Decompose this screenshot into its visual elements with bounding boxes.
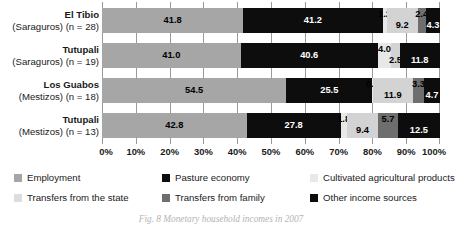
bar-value-label: 9.2 (396, 21, 409, 30)
category-label-sub: (Saraguros) (n = 28) (0, 21, 99, 33)
bar-value-label: 42.8 (165, 121, 183, 130)
legend-item[interactable]: Other income sources (310, 192, 417, 203)
legend-swatch-icon (162, 194, 170, 202)
x-tick-label: 100% (422, 146, 446, 157)
bar-row: 41.841.21.29.22.44.3 (102, 8, 440, 33)
legend-item[interactable]: Pasture economy (162, 172, 250, 183)
legend-label: Employment (27, 172, 80, 183)
bar-value-label: 41.8 (164, 16, 182, 25)
legend-item[interactable]: Transfers from the state (14, 192, 128, 203)
category-label-name: Tutupali (0, 44, 99, 56)
figure-caption: Fig. 8 Monetary household incomes in 200… (0, 214, 442, 224)
category-label: El Tibio(Saraguros) (n = 28) (0, 9, 99, 32)
bar-segment: 3.3 (413, 78, 424, 103)
category-axis-labels: El Tibio(Saraguros) (n = 28)Tutupali(Sar… (0, 2, 99, 148)
x-tick-label: 0% (99, 146, 113, 157)
legend-label: Pasture economy (175, 172, 250, 183)
legend-swatch-icon (14, 194, 22, 202)
bar-segment: 9.4 (347, 113, 379, 138)
legend-swatch-icon (310, 174, 318, 182)
bar-value-label: 11.8 (411, 56, 429, 65)
x-tick-label: 50% (262, 146, 281, 157)
category-label: Tutupali(Mestizos) (n = 13) (0, 114, 99, 137)
bar-value-label: 3.3 (412, 80, 425, 89)
bar-value-label: 4.7 (426, 91, 439, 100)
bar-value-label: 5.7 (382, 115, 395, 124)
bar-segment: 41.8 (102, 8, 243, 33)
category-label-name: Tutupali (0, 114, 99, 126)
bar-value-label: 12.5 (410, 126, 428, 135)
bar-series-container: 41.841.21.29.22.44.341.040.64.02.511.854… (102, 2, 440, 144)
bar-segment: 40.6 (241, 43, 378, 68)
category-label-name: El Tibio (0, 9, 99, 21)
x-axis-ticks: 0%10%20%30%40%50%60%70%80%90%100% (102, 144, 440, 160)
bar-segment: 12.5 (398, 113, 440, 138)
x-tick-label: 60% (295, 146, 314, 157)
bar-segment: 54.5 (102, 78, 286, 103)
bar-segment: 9.2 (387, 8, 418, 33)
category-label-sub: (Mestizos) (n = 13) (0, 126, 99, 138)
bar-segment: 27.8 (247, 113, 341, 138)
x-tick-label: 90% (397, 146, 416, 157)
bar-segment: 25.5 (286, 78, 372, 103)
bar-segment: 2.4 (418, 8, 426, 33)
bar-segment: 41.0 (102, 43, 241, 68)
legend-swatch-icon (162, 174, 170, 182)
legend-label: Cultivated agricultural products (323, 172, 455, 183)
bar-value-label: 9.4 (356, 126, 369, 135)
bar-value-label: 41.0 (162, 51, 180, 60)
chart-plot-wrapper: El Tibio(Saraguros) (n = 28)Tutupali(Sar… (0, 2, 442, 148)
legend-label: Transfers from the state (27, 192, 128, 203)
bar-value-label: 27.8 (285, 121, 303, 130)
bar-segment: 42.8 (102, 113, 247, 138)
legend-label: Other income sources (323, 192, 417, 203)
bar-value-label: 25.5 (320, 86, 338, 95)
bar-row: 42.827.81.89.45.712.5 (102, 113, 440, 138)
category-label: Los Guabos(Mestizos) (n = 18) (0, 79, 99, 102)
legend-item[interactable]: Employment (14, 172, 80, 183)
bar-row: 41.040.64.02.511.8 (102, 43, 440, 68)
x-tick-label: 20% (160, 146, 179, 157)
bar-segment: 2.5 (391, 43, 399, 68)
bar-value-label: 4.0 (378, 45, 391, 54)
legend-item[interactable]: Transfers from family (162, 192, 265, 203)
x-tick-label: 40% (228, 146, 247, 157)
legend-item[interactable]: Cultivated agricultural products (310, 172, 455, 183)
bar-value-label: 11.9 (384, 91, 402, 100)
plot-area: 41.841.21.29.22.44.341.040.64.02.511.854… (102, 2, 440, 148)
bar-segment: 4.3 (426, 8, 441, 33)
legend-swatch-icon (14, 174, 22, 182)
bar-segment: 4.7 (424, 78, 440, 103)
legend-swatch-icon (310, 194, 318, 202)
x-tick-label: 10% (126, 146, 145, 157)
bar-value-label: 4.3 (427, 21, 440, 30)
bar-segment: 5.7 (378, 113, 397, 138)
bar-value-label: 41.2 (304, 16, 322, 25)
bar-value-label: 40.6 (300, 51, 318, 60)
bar-value-label: 54.5 (185, 86, 203, 95)
chart-legend: EmploymentPasture economyCultivated agri… (14, 172, 442, 208)
bar-row: 54.525.50.111.93.34.7 (102, 78, 440, 103)
category-label-name: Los Guabos (0, 79, 99, 91)
x-tick-label: 70% (329, 146, 348, 157)
category-label: Tutupali(Saraguros) (n = 19) (0, 44, 99, 67)
legend-label: Transfers from family (175, 192, 265, 203)
x-tick-label: 80% (363, 146, 382, 157)
category-label-sub: (Saraguros) (n = 19) (0, 56, 99, 68)
bar-segment: 41.2 (243, 8, 382, 33)
x-tick-label: 30% (194, 146, 213, 157)
category-label-sub: (Mestizos) (n = 18) (0, 91, 99, 103)
bar-segment: 11.9 (373, 78, 413, 103)
bar-segment: 11.8 (400, 43, 440, 68)
